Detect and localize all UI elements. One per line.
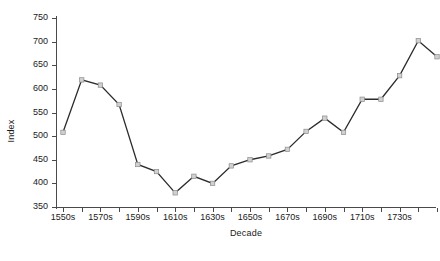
data-point-marker: [379, 97, 383, 101]
data-point-marker: [341, 130, 345, 134]
x-axis-title-label: Decade: [230, 228, 262, 238]
data-point-marker: [267, 154, 271, 158]
data-point-marker: [360, 97, 364, 101]
line-chart: Index 350400450500550600650700750 1550s1…: [0, 0, 440, 261]
data-point-marker: [61, 130, 65, 134]
data-point-marker: [117, 102, 121, 106]
data-point-marker: [304, 129, 308, 133]
index-series-markers: [61, 38, 439, 195]
data-point-marker: [416, 38, 420, 42]
data-point-marker: [397, 73, 401, 77]
x-axis-title: Decade: [57, 228, 435, 238]
data-point-marker: [192, 174, 196, 178]
data-point-marker: [229, 164, 233, 168]
data-point-marker: [323, 116, 327, 120]
data-point-marker: [285, 147, 289, 151]
data-point-marker: [154, 169, 158, 173]
data-point-marker: [435, 55, 439, 59]
data-point-marker: [173, 191, 177, 195]
data-point-marker: [80, 78, 84, 82]
data-point-marker: [136, 162, 140, 166]
series-layer: [0, 0, 440, 261]
index-series-line: [63, 41, 437, 193]
data-point-marker: [98, 83, 102, 87]
data-point-marker: [210, 181, 214, 185]
data-point-marker: [248, 158, 252, 162]
